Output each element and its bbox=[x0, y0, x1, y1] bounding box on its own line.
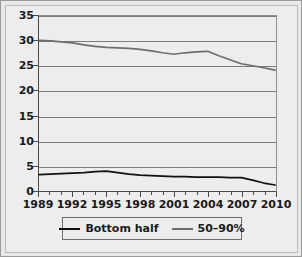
legend-label-bottom-half: Bottom half bbox=[85, 223, 158, 235]
plot-area bbox=[38, 15, 277, 192]
x-tick-mark-minor bbox=[95, 192, 96, 195]
x-tick-mark-major bbox=[242, 192, 243, 197]
x-tick-mark-minor bbox=[265, 192, 266, 195]
series-line bbox=[39, 40, 275, 70]
legend-swatch-line-icon bbox=[59, 228, 80, 230]
x-tick-mark-major bbox=[38, 192, 39, 197]
line-chart: 05101520253035 1989199219951998200120042… bbox=[6, 6, 299, 254]
x-tick-mark-major bbox=[208, 192, 209, 197]
figure-frame: 05101520253035 1989199219951998200120042… bbox=[0, 0, 302, 257]
y-axis-ticks bbox=[6, 15, 38, 192]
series-line bbox=[39, 171, 275, 185]
series-layer bbox=[39, 16, 276, 191]
x-tick-mark-major bbox=[276, 192, 277, 197]
x-tick-mark-major bbox=[72, 192, 73, 197]
x-tick-mark-minor bbox=[117, 192, 118, 195]
x-tick-mark-major bbox=[140, 192, 141, 197]
x-tick-mark-minor bbox=[197, 192, 198, 195]
x-tick-mark-minor bbox=[61, 192, 62, 195]
x-tick-mark-minor bbox=[151, 192, 152, 195]
x-axis-labels: 19891992199519982001200420072010 bbox=[38, 198, 277, 212]
x-tick-mark-major bbox=[174, 192, 175, 197]
legend-entry-bottom-half: Bottom half bbox=[59, 223, 158, 235]
x-tick-label: 2010 bbox=[256, 198, 296, 211]
x-tick-mark-minor bbox=[253, 192, 254, 195]
figure-inner-frame: 05101520253035 1989199219951998200120042… bbox=[5, 5, 298, 253]
chart-legend: Bottom half 50–90% bbox=[62, 217, 242, 240]
legend-swatch-line-icon bbox=[172, 228, 193, 230]
x-tick-mark-minor bbox=[83, 192, 84, 195]
x-tick-mark-minor bbox=[49, 192, 50, 195]
x-tick-mark-major bbox=[106, 192, 107, 197]
x-tick-mark-minor bbox=[163, 192, 164, 195]
legend-label-50-90: 50–90% bbox=[198, 223, 245, 235]
x-tick-mark-minor bbox=[129, 192, 130, 195]
x-tick-mark-minor bbox=[231, 192, 232, 195]
legend-entry-50-90: 50–90% bbox=[172, 223, 245, 235]
x-tick-mark-minor bbox=[219, 192, 220, 195]
x-tick-mark-minor bbox=[185, 192, 186, 195]
